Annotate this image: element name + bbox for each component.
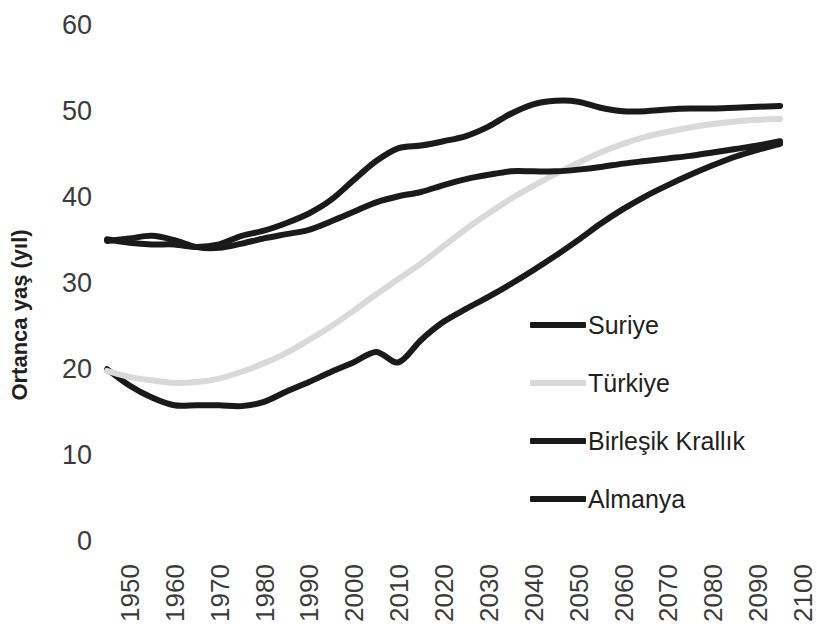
x-axis-tick-label: 2080 — [700, 564, 726, 622]
legend-color-swatch-icon — [530, 380, 586, 386]
legend-item-label: Almanya — [586, 485, 685, 514]
legend-item-label: Suriye — [586, 311, 659, 340]
x-axis-tick-label: 2020 — [431, 564, 457, 622]
x-axis-tick-label: 1960 — [162, 564, 188, 622]
x-axis-tick-label: 2100 — [790, 564, 816, 622]
legend-item[interactable]: Almanya — [530, 470, 798, 528]
x-axis-tick-label: 2000 — [341, 564, 367, 622]
x-axis-tick-label: 2090 — [745, 564, 771, 622]
legend-item-label: Türkiye — [586, 369, 670, 398]
x-axis-tick-label: 1950 — [117, 564, 143, 622]
x-axis-tick-label: 2070 — [655, 564, 681, 622]
x-axis-tick-label: 1970 — [207, 564, 233, 622]
x-axis-tick-label: 2010 — [386, 564, 412, 622]
x-axis-tick-label: 2030 — [476, 564, 502, 622]
x-axis-tick-label: 1990 — [296, 564, 322, 622]
legend: SuriyeTürkiyeBirleşik KrallıkAlmanya — [530, 296, 798, 528]
legend-item[interactable]: Türkiye — [530, 354, 798, 412]
x-axis-tick-label: 2050 — [566, 564, 592, 622]
legend-item-label: Birleşik Krallık — [586, 427, 745, 456]
legend-item[interactable]: Suriye — [530, 296, 798, 354]
legend-color-swatch-icon — [530, 496, 586, 502]
x-axis-tick-label: 1980 — [252, 564, 278, 622]
legend-color-swatch-icon — [530, 322, 586, 328]
x-axis-tick-label: 2060 — [611, 564, 637, 622]
legend-color-swatch-icon — [530, 438, 586, 444]
x-axis-tick-label: 2040 — [521, 564, 547, 622]
legend-item[interactable]: Birleşik Krallık — [530, 412, 798, 470]
